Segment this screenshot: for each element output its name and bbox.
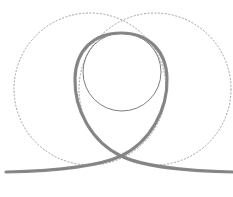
loop-diagram: [0, 0, 233, 197]
inner-circle: [83, 33, 161, 111]
loop-curve: [6, 33, 233, 172]
left-dashed-circle: [14, 13, 166, 165]
loop-curve-core: [6, 33, 233, 172]
